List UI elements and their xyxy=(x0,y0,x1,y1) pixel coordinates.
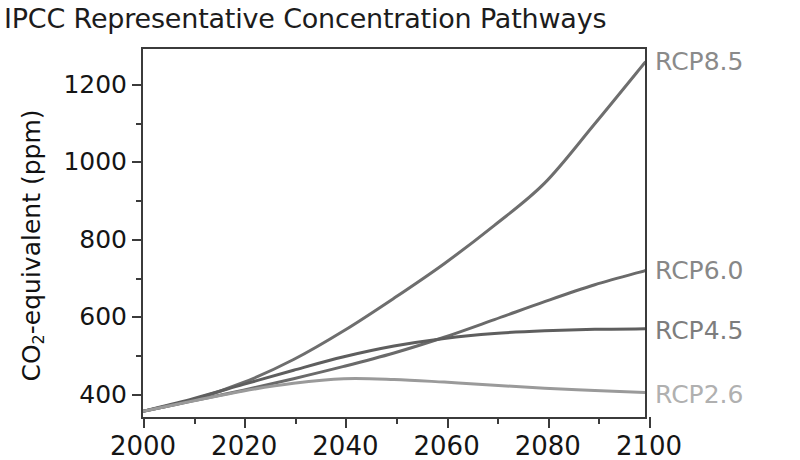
chart-title: IPCC Representative Concentration Pathwa… xyxy=(4,2,606,36)
x-tick-label: 2060 xyxy=(414,433,480,459)
y-tick-minor xyxy=(136,123,143,125)
y-tick-label: 600 xyxy=(79,304,127,329)
x-tick-label: 2040 xyxy=(312,433,378,459)
x-tick-minor xyxy=(194,417,196,424)
y-tick-label: 1000 xyxy=(63,149,127,174)
y-tick-major xyxy=(132,316,143,318)
y-tick-minor xyxy=(136,200,143,202)
series-line-rcp8-5 xyxy=(143,62,645,411)
x-tick-major xyxy=(548,417,550,428)
series-label-rcp8-5: RCP8.5 xyxy=(655,48,743,73)
y-tick-minor xyxy=(136,278,143,280)
x-tick-minor xyxy=(598,417,600,424)
series-line-rcp2-6 xyxy=(143,378,645,411)
x-tick-minor xyxy=(497,417,499,424)
x-tick-label: 2000 xyxy=(110,433,176,459)
x-tick-major xyxy=(447,417,449,428)
chart-figure: IPCC Representative Concentration Pathwa… xyxy=(0,0,800,460)
y-tick-major xyxy=(132,84,143,86)
y-tick-major xyxy=(132,394,143,396)
x-tick-label: 2020 xyxy=(211,433,277,459)
x-tick-label: 2080 xyxy=(515,433,581,459)
y-axis-label-post: -equivalent (ppm) xyxy=(17,109,46,334)
series-label-rcp6-0: RCP6.0 xyxy=(655,257,743,282)
series-label-rcp2-6: RCP2.6 xyxy=(655,381,743,406)
x-tick-minor xyxy=(396,417,398,424)
y-axis-label: CO2-equivalent (ppm) xyxy=(17,61,50,431)
x-tick-major xyxy=(143,417,145,428)
y-axis-label-subscript: 2 xyxy=(29,334,48,344)
x-tick-minor xyxy=(295,417,297,424)
y-axis-label-pre: CO xyxy=(17,344,46,381)
y-tick-label: 800 xyxy=(79,226,127,251)
plot-area: 4006008001000120020002020204020602080210… xyxy=(141,47,647,419)
y-tick-minor xyxy=(136,355,143,357)
x-tick-label: 2100 xyxy=(616,433,682,459)
y-tick-label: 1200 xyxy=(63,71,127,96)
y-tick-major xyxy=(132,239,143,241)
x-tick-major xyxy=(244,417,246,428)
series-label-rcp4-5: RCP4.5 xyxy=(655,317,743,342)
series-curves xyxy=(143,49,645,417)
y-tick-label: 400 xyxy=(79,381,127,406)
series-line-rcp4-5 xyxy=(143,329,645,411)
x-tick-major xyxy=(345,417,347,428)
y-tick-major xyxy=(132,161,143,163)
x-tick-major xyxy=(649,417,651,428)
